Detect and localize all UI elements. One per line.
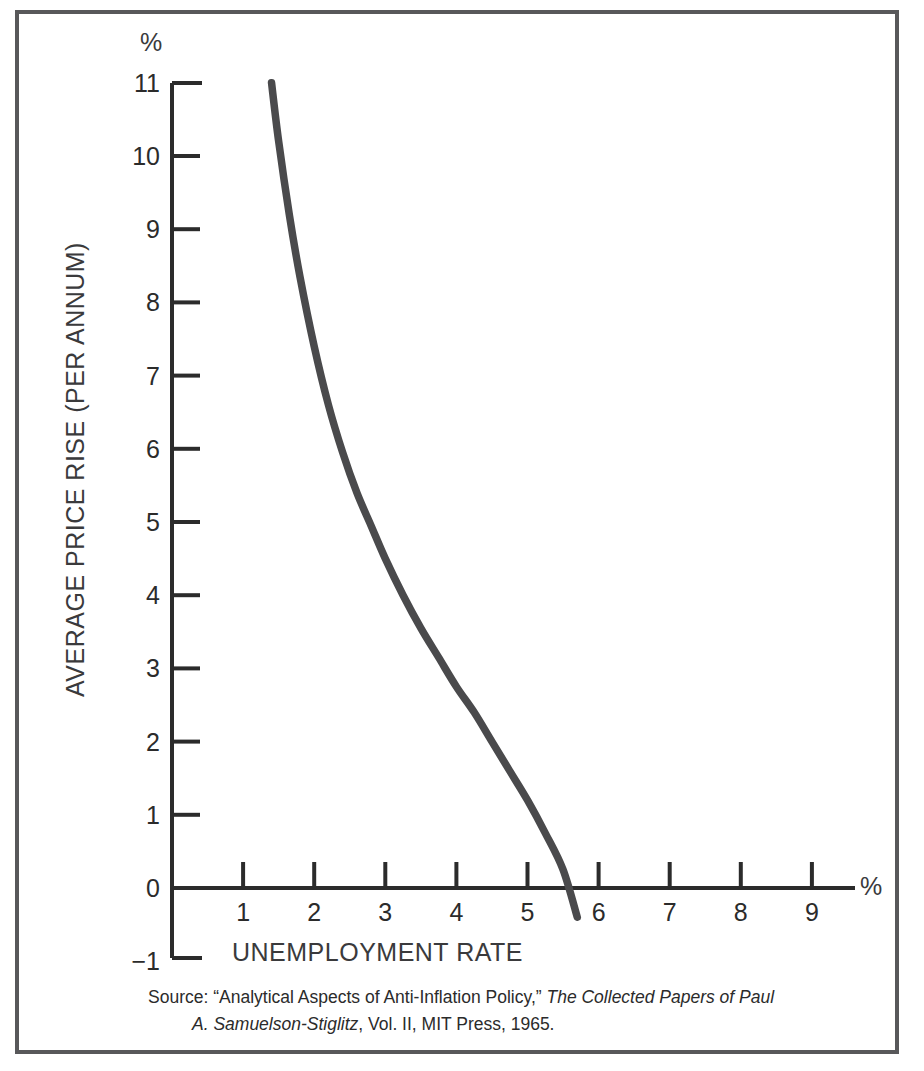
x-axis-tick-label: 4 [436,898,476,927]
y-axis-tick-label: −1 [112,947,160,976]
y-axis-title: AVERAGE PRICE RISE (PER ANNUM) [61,210,90,730]
x-axis-tick-label: 2 [294,898,334,927]
x-axis-unit-label: % [860,872,883,901]
y-axis-tick-label: 2 [112,727,160,756]
source-citation-line-1: Source: “Analytical Aspects of Anti-Infl… [148,984,848,1011]
source-prefix: Source: “Analytical Aspects of Anti-Infl… [148,987,546,1007]
x-axis-tick-label: 1 [223,898,263,927]
y-axis-tick-label: 0 [112,874,160,903]
x-axis-tick-label: 5 [508,898,548,927]
source-citation-line-2: A. Samuelson-Stiglitz, Vol. II, MIT Pres… [148,1011,848,1038]
y-axis-tick-label: 7 [112,361,160,390]
x-axis-ticks [243,862,812,888]
y-axis-tick-label: 3 [112,654,160,683]
source-title-part-1: The Collected Papers of Paul [546,987,774,1007]
x-axis-tick-label: 6 [579,898,619,927]
y-axis-tick-label: 4 [112,581,160,610]
x-axis-tick-label: 3 [365,898,405,927]
y-axis-tick-label: 1 [112,800,160,829]
y-axis-tick-label: 6 [112,434,160,463]
y-axis-tick-label: 11 [112,68,160,97]
y-axis-ticks [172,156,200,815]
y-axis-unit-label: % [140,28,163,57]
y-axis-tick-label: 9 [112,215,160,244]
x-axis-tick-label: 9 [792,898,832,927]
x-axis-tick-label: 8 [721,898,761,927]
y-axis-tick-label: 10 [112,142,160,171]
x-axis-title: UNEMPLOYMENT RATE [232,938,523,967]
x-axis-tick-label: 7 [650,898,690,927]
phillips-curve-figure: % % AVERAGE PRICE RISE (PER ANNUM) UNEMP… [0,0,924,1071]
y-axis-tick-label: 8 [112,288,160,317]
y-axis-tick-label: 5 [112,508,160,537]
source-title-part-2: A. Samuelson-Stiglitz [192,1014,358,1034]
source-citation: Source: “Analytical Aspects of Anti-Infl… [148,984,848,1038]
phillips-curve-line [272,83,578,917]
source-suffix: , Vol. II, MIT Press, 1965. [358,1014,554,1034]
